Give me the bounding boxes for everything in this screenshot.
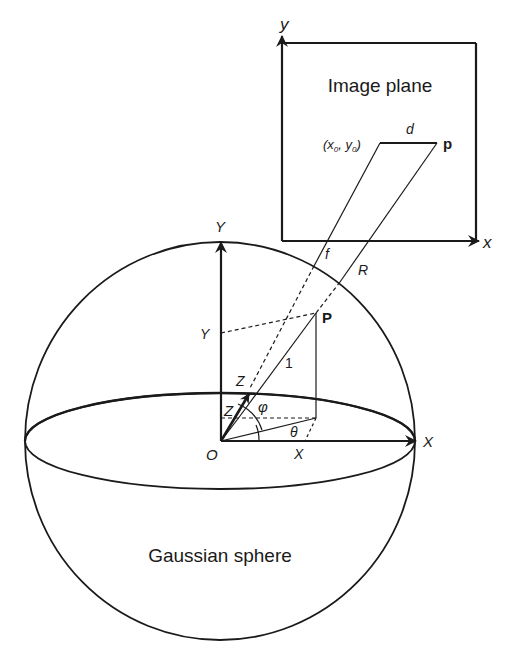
foot-to-X-dashed [305,418,316,441]
point-P-construction: P 1 Y X Z φ θ [200,309,332,462]
range-ray-solid [340,143,437,282]
image-point-label: p [443,135,452,152]
P-to-Y-dashed [221,313,316,333]
image-y-axis-label: y [279,15,290,34]
distance-label: d [406,121,415,137]
unit-ray [240,313,316,416]
principal-point-label: (x0, y0) [323,137,361,154]
focal-length-label: f [325,246,331,262]
image-plane-title: Image plane [328,75,433,96]
projection-rays: f R [221,143,437,441]
sphere-point-label: P [322,309,332,326]
unit-length-label: 1 [285,355,293,371]
sphere-title: Gaussian sphere [148,545,292,566]
theta-label: θ [290,424,298,440]
X-axis-label: X [422,433,434,450]
focal-ray-solid [314,143,380,266]
svg-text:(x0, y0): (x0, y0) [323,137,361,154]
coord-Y-label: Y [200,326,211,342]
Z-axis-label: Z [223,402,234,419]
origin-label: O [206,446,218,463]
gaussian-sphere-diagram: y x Image plane d p (x0, y0) Gaussian sp… [0,0,509,664]
coord-Z-label: Z [235,373,245,389]
Y-axis-label: Y [215,218,226,235]
coord-X-label: X [293,446,304,462]
phi-label: φ [258,398,268,415]
range-label: R [358,262,368,278]
image-x-axis-label: x [482,233,492,252]
